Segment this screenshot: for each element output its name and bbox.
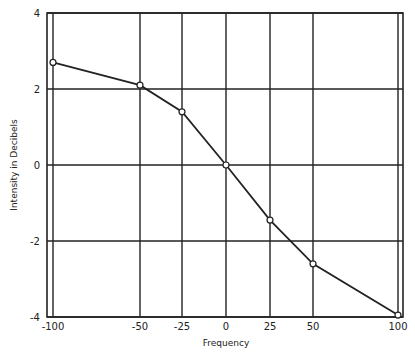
y-tick-label: 0	[34, 160, 40, 171]
y-tick-label: -4	[30, 312, 40, 323]
data-point-marker	[223, 162, 229, 168]
y-tick-label: -2	[30, 236, 40, 247]
x-tick-labels: -100-50-2502550100	[42, 321, 408, 332]
data-point-marker	[137, 82, 143, 88]
y-tick-label: 4	[34, 8, 40, 19]
data-point-marker	[267, 217, 273, 223]
x-tick-label: 25	[264, 321, 277, 332]
x-axis-label: Frequency	[203, 338, 250, 348]
y-tick-label: 2	[34, 84, 40, 95]
y-tick-labels: 420-2-4	[30, 8, 40, 323]
data-point-marker	[395, 312, 401, 318]
data-point-marker	[50, 59, 56, 65]
line-chart: 420-2-4 -100-50-2502550100 Frequency Int…	[0, 0, 415, 358]
x-tick-label: 100	[388, 321, 407, 332]
x-tick-label: 50	[307, 321, 320, 332]
y-axis-label: Intensity in Decibels	[9, 119, 19, 211]
data-point-marker	[179, 109, 185, 115]
x-tick-label: -50	[132, 321, 148, 332]
x-tick-label: -100	[42, 321, 65, 332]
data-point-marker	[310, 261, 316, 267]
x-tick-label: -25	[174, 321, 190, 332]
x-tick-label: 0	[223, 321, 229, 332]
